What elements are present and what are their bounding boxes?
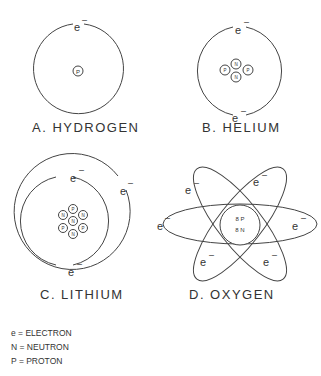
legend-electron: e = ELECTRON (11, 326, 72, 340)
svg-text:–: – (77, 259, 82, 269)
svg-text:–: – (241, 106, 246, 116)
atom-diagrams: P PNNP PNNN PPN 8 P 8 N e– e– e– e– e– e… (0, 0, 321, 376)
svg-text:P: P (223, 68, 226, 73)
svg-text:e: e (120, 185, 126, 197)
legend-proton: P = PROTON (11, 354, 72, 368)
svg-text:e: e (185, 184, 191, 196)
svg-text:8 N: 8 N (235, 227, 244, 233)
hydrogen-label: A. HYDROGEN (32, 120, 140, 135)
svg-text:e: e (292, 220, 298, 232)
svg-text:N: N (71, 219, 74, 224)
svg-text:–: – (262, 170, 267, 180)
svg-text:P: P (246, 68, 249, 73)
lithium-label: C. LITHIUM (40, 287, 124, 302)
svg-text:P: P (71, 207, 74, 212)
svg-text:e: e (70, 172, 76, 184)
helium-label: B. HELIUM (202, 120, 281, 135)
svg-text:N: N (234, 62, 237, 67)
oxygen-label: D. OXYGEN (189, 287, 275, 302)
helium-atom (197, 27, 281, 115)
svg-text:–: – (165, 213, 170, 223)
svg-text:–: – (209, 250, 214, 260)
svg-text:P: P (81, 226, 84, 231)
svg-text:–: – (194, 178, 199, 188)
svg-text:e: e (74, 21, 80, 33)
svg-text:e: e (68, 266, 74, 278)
svg-text:–: – (79, 165, 84, 175)
svg-text:P: P (61, 226, 64, 231)
svg-text:e: e (157, 220, 163, 232)
svg-text:N: N (234, 75, 237, 80)
svg-text:N: N (61, 213, 64, 218)
svg-text:–: – (301, 213, 306, 223)
proton-label: P (76, 69, 80, 75)
legend-neutron: N = NEUTRON (11, 340, 72, 354)
legend: e = ELECTRON N = NEUTRON P = PROTON (11, 326, 72, 368)
svg-text:–: – (82, 15, 87, 25)
svg-text:8 P: 8 P (235, 216, 244, 222)
svg-text:–: – (272, 250, 277, 260)
svg-text:e: e (235, 24, 241, 36)
svg-text:e: e (253, 176, 259, 188)
svg-text:e: e (263, 256, 269, 268)
svg-text:e: e (200, 256, 206, 268)
svg-text:–: – (244, 17, 249, 27)
svg-text:N: N (81, 213, 84, 218)
svg-text:N: N (71, 232, 74, 237)
svg-text:–: – (128, 178, 133, 188)
